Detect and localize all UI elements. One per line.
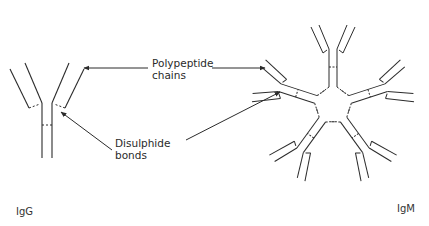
igm-structure: [250, 25, 416, 183]
polypeptide-chains-label: Polypeptide chains: [152, 57, 213, 81]
disulphide-arrow-igg: [61, 112, 112, 150]
disulphide-arrow-igm: [186, 92, 280, 140]
polypeptide-label-line1: Polypeptide: [152, 57, 213, 69]
disulphide-label-line1: Disulphide: [115, 137, 170, 149]
igm-caption: IgM: [397, 203, 415, 214]
disulphide-bonds-label: Disulphide bonds: [115, 137, 170, 161]
igg-caption: IgG: [16, 206, 33, 217]
polypeptide-label-line2: chains: [152, 69, 213, 81]
antibody-diagram: [0, 0, 429, 226]
igg-structure: [10, 63, 84, 158]
disulphide-label-line2: bonds: [115, 149, 170, 161]
